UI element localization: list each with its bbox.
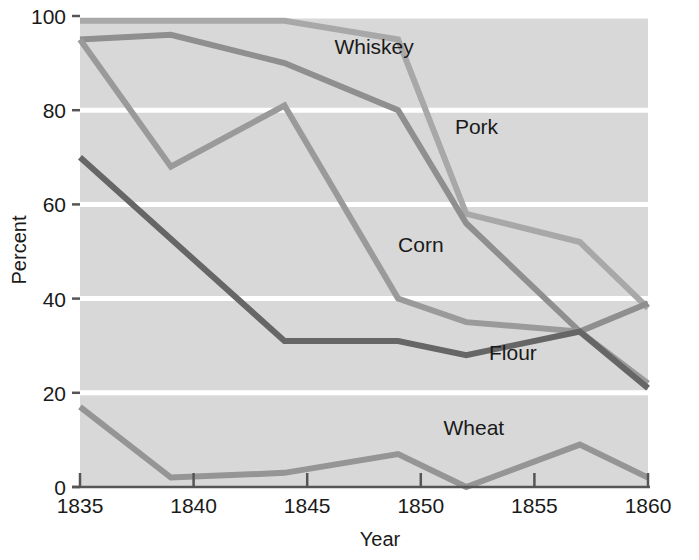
x-tick-label-1845: 1845 (284, 494, 331, 517)
y-axis (72, 16, 80, 487)
x-tick-label-1860: 1860 (625, 494, 672, 517)
y-tick-label-0: 0 (54, 476, 66, 499)
y-tick-labels-group: 020406080100 (31, 5, 66, 499)
x-tick-label-1850: 1850 (397, 494, 444, 517)
series-label-corn: Corn (398, 233, 444, 256)
y-tick-label-20: 20 (43, 382, 66, 405)
chart-container: 183518401845185018551860 020406080100 Wh… (0, 0, 699, 560)
line-chart: 183518401845185018551860 020406080100 Wh… (0, 0, 699, 560)
y-tick-label-80: 80 (43, 99, 66, 122)
x-tick-label-1840: 1840 (170, 494, 217, 517)
y-tick-label-60: 60 (43, 193, 66, 216)
series-label-wheat: Wheat (444, 416, 505, 439)
y-tick-label-100: 100 (31, 5, 66, 28)
plot-background (80, 16, 648, 487)
x-tick-label-1855: 1855 (511, 494, 558, 517)
series-label-flour: Flour (489, 341, 537, 364)
series-label-pork: Pork (455, 115, 499, 138)
y-tick-label-40: 40 (43, 288, 66, 311)
y-axis-title: Percent (8, 215, 30, 284)
x-tick-labels-group: 183518401845185018551860 (57, 494, 672, 517)
x-axis-title: Year (360, 528, 401, 550)
series-label-whiskey: Whiskey (334, 35, 414, 58)
